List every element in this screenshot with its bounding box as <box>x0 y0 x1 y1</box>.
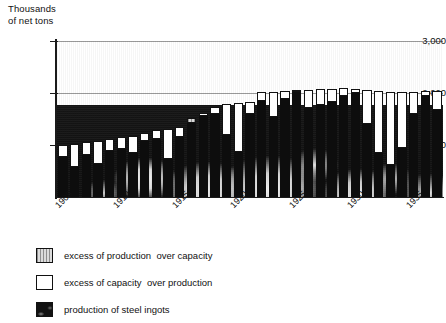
x-tick-label-1910: 1910 <box>111 189 132 210</box>
legend-swatch-black-icon <box>36 302 53 317</box>
x-tick-label-1935: 1935 <box>404 189 425 210</box>
legend-swatch-white-icon <box>36 275 53 290</box>
legend-item-excess-capacity: excess of capacity over production <box>36 274 366 301</box>
chart-legend: excess of production over capacity exces… <box>36 247 366 323</box>
legend-swatch-gray-icon <box>36 248 53 263</box>
chart-page: Thousands of net tons 1,0002,0003,000 19… <box>0 0 446 323</box>
x-tick-label-1925: 1925 <box>287 189 308 210</box>
legend-label: excess of capacity over production <box>64 276 212 289</box>
x-tick-label-1920: 1920 <box>228 189 249 210</box>
legend-item-production: production of steel ingots <box>36 301 366 323</box>
x-tick-label-1905: 1905 <box>53 189 74 210</box>
x-tick-label-1930: 1930 <box>345 189 366 210</box>
legend-label: production of steel ingots <box>64 303 170 316</box>
legend-label: excess of production over capacity <box>64 249 212 262</box>
legend-item-excess-production: excess of production over capacity <box>36 247 366 274</box>
x-tick-label-1915: 1915 <box>170 189 191 210</box>
